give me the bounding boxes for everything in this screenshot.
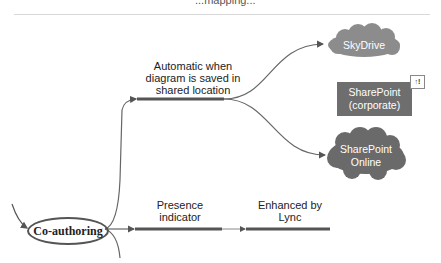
label-line: shared location <box>138 84 248 96</box>
label-line: Automatic when <box>138 60 248 72</box>
label-line: Lync <box>250 211 330 223</box>
sharepoint-corporate-node: SharePoint (corporate) <box>337 82 412 116</box>
label-line: diagram is saved in <box>138 72 248 84</box>
branch-label-lync: Enhanced by Lync <box>250 199 330 223</box>
label-line: Enhanced by <box>250 199 330 211</box>
branch-label-automatic: Automatic when diagram is saved in share… <box>138 60 248 96</box>
sharepoint-online-label: SharePoint Online <box>330 143 402 169</box>
central-node-co-authoring: Co-authoring <box>27 217 109 245</box>
label-line: indicator <box>140 211 220 223</box>
label-line: Online <box>330 156 402 169</box>
label-line: SharePoint <box>330 143 402 156</box>
alert-badge-icon: ↑! <box>410 75 425 89</box>
label-line: Presence <box>140 199 220 211</box>
skydrive-label: SkyDrive <box>332 39 396 52</box>
branch-label-presence: Presence indicator <box>140 199 220 223</box>
label-line: SharePoint <box>349 86 401 99</box>
label-line: (corporate) <box>349 99 401 112</box>
